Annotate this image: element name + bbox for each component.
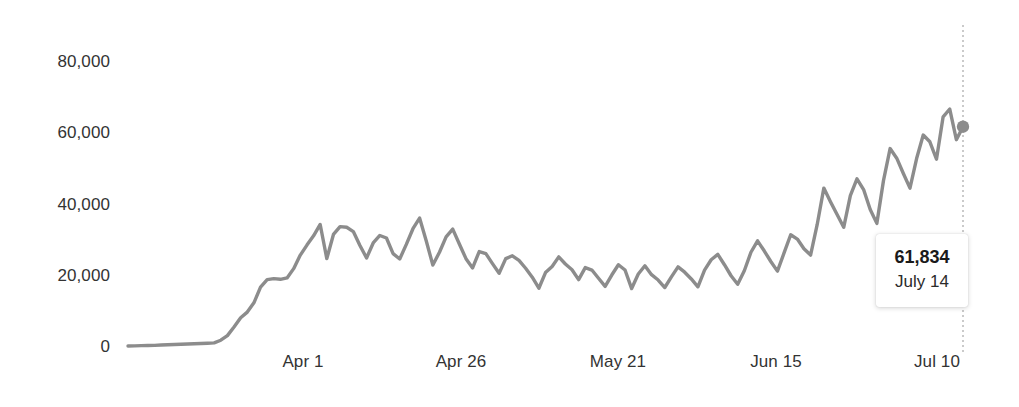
x-axis-tick-jul-10: Jul 10 [914,352,960,372]
x-axis-tick-may-21: May 21 [590,352,646,372]
y-axis-tick-20000: 20,000 [52,266,110,286]
tooltip: 61,834 July 14 [876,234,968,307]
x-axis-tick-apr-26: Apr 26 [436,352,487,372]
tooltip-value: 61,834 [890,244,954,270]
y-axis-tick-40000: 40,000 [52,195,110,215]
y-axis-tick-60000: 60,000 [52,123,110,143]
tooltip-date: July 14 [890,270,954,295]
highlight-point-marker[interactable] [957,121,969,133]
x-axis-tick-jun-15: Jun 15 [750,352,802,372]
series-line-daily-new-cases [128,109,963,346]
y-axis-tick-80000: 80,000 [52,52,110,72]
line-chart: 80,000 60,000 40,000 20,000 0 Apr 1 Apr … [0,0,1019,407]
x-axis-tick-apr-1: Apr 1 [282,352,323,372]
chart-plot-area [0,0,1019,407]
y-axis-tick-0: 0 [52,337,110,357]
